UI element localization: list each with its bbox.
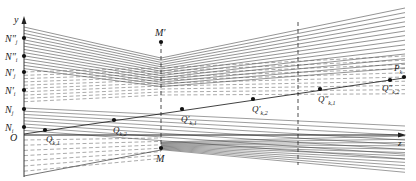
y-mark-label: Nj	[4, 104, 14, 117]
boundary-line	[24, 150, 161, 176]
path-point-label: Q′k,1	[181, 114, 197, 126]
dashed-ray-line	[24, 152, 161, 161]
y-mark-dot	[22, 36, 26, 40]
ray-line	[161, 149, 405, 169]
y-mark-dot	[22, 54, 26, 58]
dashed-ray-line	[161, 69, 405, 77]
y-mark-subscript: i	[16, 57, 18, 63]
ray-line	[24, 37, 161, 65]
y-mark-subscript: j	[11, 110, 14, 116]
y-mark-label: N″i	[4, 51, 18, 64]
path-point-subscript: k,2	[260, 110, 267, 116]
path-point-label: Q″k,2	[382, 83, 399, 95]
ray-line	[24, 108, 405, 126]
ray-line	[24, 114, 405, 135]
ray-line	[161, 13, 405, 61]
ray-line	[161, 40, 405, 73]
line-bundles	[24, 8, 405, 176]
path-point-subscript: k,2	[120, 131, 127, 137]
ray-line	[24, 30, 161, 60]
path-point-dot	[43, 128, 47, 132]
y-mark-subscript: j	[15, 39, 18, 45]
dashed-ray-line	[161, 77, 405, 83]
y-mark-dot	[22, 88, 26, 92]
y-mark-subscript: j	[13, 73, 16, 79]
dashed-ray-line	[24, 95, 161, 102]
m-prime-label: M′	[154, 27, 166, 38]
y-mark-dot	[22, 125, 26, 129]
ray-line	[161, 8, 405, 58]
path-point-subscript: k,1	[189, 120, 196, 126]
path-point-dot	[402, 75, 406, 79]
y-mark-subscript: i	[14, 91, 16, 97]
dashed-ray-line	[24, 92, 161, 98]
ray-reflection-diagram: y z O NiNjN′iN′jN″iN″j M′M Qk,1Qk,2Q′k,1…	[0, 0, 416, 181]
m-prime-dot	[159, 40, 163, 44]
ray-line	[24, 46, 161, 71]
path-point-label: Q′k,2	[252, 104, 268, 116]
z-axis-arrow-icon	[398, 133, 406, 138]
y-mark-label: Ni	[4, 122, 14, 135]
y-mark-dot	[22, 70, 26, 74]
ray-line	[24, 33, 161, 62]
ray-line	[161, 143, 405, 144]
ray-line	[161, 26, 405, 66]
dashed-ray-line	[24, 89, 161, 95]
path-point-subscript: k,1	[328, 100, 335, 106]
dashed-ray-line	[24, 86, 161, 92]
y-mark-label: N″j	[4, 33, 18, 46]
dashed-ray-line	[24, 80, 161, 85]
ray-line	[161, 22, 405, 65]
ray-line	[24, 59, 161, 80]
y-axis-label: y	[13, 14, 19, 25]
path-point-label: Pk	[393, 63, 403, 75]
dashed-ray-line	[161, 90, 405, 92]
y-mark-label: N′j	[4, 67, 16, 80]
path-point-dot	[251, 97, 255, 101]
ray-line	[161, 31, 405, 69]
z-axis-label: z	[397, 138, 402, 148]
m-label: M	[155, 153, 165, 164]
path-point-subscript: k,1	[53, 140, 60, 146]
ray-line	[161, 45, 405, 76]
path-point-subscript: k	[400, 69, 403, 75]
ray-line	[161, 17, 405, 62]
path-point-label: Q″k,1	[318, 94, 335, 106]
ray-line	[24, 121, 405, 145]
y-mark-label: N′i	[4, 85, 16, 98]
y-axis-marks: NiNjN′iN′jN″iN″j	[4, 33, 26, 135]
main-ray	[24, 78, 404, 134]
path-point-dot	[388, 78, 392, 82]
axes: y z O	[10, 14, 406, 177]
path-point-dot	[112, 118, 116, 122]
y-mark-dot	[22, 107, 26, 111]
path-point-label: Qk,1	[46, 134, 60, 146]
dashed-ray-line	[161, 94, 405, 95]
dashed-ray-line	[24, 155, 161, 166]
path-point-dot	[318, 87, 322, 91]
path-point-subscript: k,2	[392, 89, 399, 95]
dashed-ray-line	[24, 145, 161, 151]
dashed-ray-line	[161, 85, 405, 89]
ray-line	[161, 146, 405, 153]
path-point-dot	[180, 107, 184, 111]
m-dot	[159, 146, 163, 150]
ray-line	[161, 54, 405, 80]
dashed-ray-line	[24, 141, 161, 145]
y-axis-arrow-icon	[22, 16, 27, 24]
